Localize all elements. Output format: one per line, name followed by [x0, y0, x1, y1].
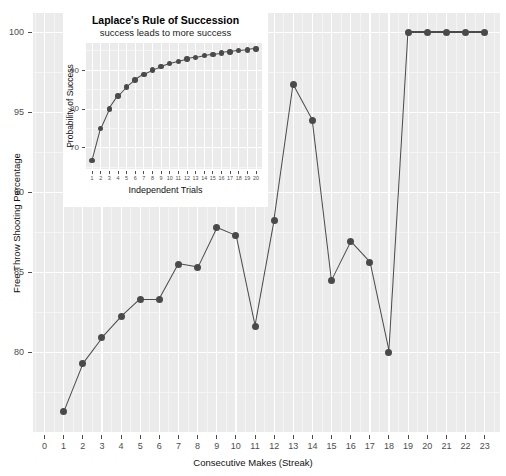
inset-x-tick-mark [238, 171, 239, 174]
gridline-horizontal-major [33, 352, 500, 353]
y-tick-mark [28, 32, 32, 33]
inset-gridline-vertical-major [187, 43, 188, 169]
inset-gridline-vertical-major [221, 43, 222, 169]
gridline-vertical-major [446, 13, 447, 432]
gridline-vertical-major [427, 13, 428, 432]
inset-x-tick-mark [161, 171, 162, 174]
x-tick-mark [293, 435, 294, 439]
inset-x-tick-mark [169, 171, 170, 174]
inset-data-point [141, 72, 146, 77]
inset-data-point [158, 64, 163, 69]
inset-x-tick-mark [221, 171, 222, 174]
data-point [462, 29, 469, 36]
data-point [79, 360, 86, 367]
data-point [405, 29, 412, 36]
x-tick-mark [331, 435, 332, 439]
gridline-vertical-minor [456, 13, 457, 432]
gridline-vertical-major [44, 13, 45, 432]
inset-gridline-vertical-major [92, 43, 93, 169]
data-point [481, 29, 488, 36]
inset-x-tick-mark [204, 171, 205, 174]
inset-x-tick-mark [100, 171, 101, 174]
inset-data-point [210, 52, 215, 57]
inset-y-axis-title: Probability of Success [65, 64, 75, 148]
x-tick-mark [140, 435, 141, 439]
y-tick-label: 100 [0, 27, 24, 37]
inset-y-tick-mark [82, 147, 85, 148]
gridline-vertical-minor [398, 13, 399, 432]
gridline-vertical-minor [302, 13, 303, 432]
inset-gridline-horizontal-major [86, 70, 262, 71]
inset-gridline-vertical-major [247, 43, 248, 169]
gridline-vertical-major [388, 13, 389, 432]
data-point [252, 323, 259, 330]
inset-data-point [219, 50, 224, 55]
inset-gridline-vertical-major [238, 43, 239, 169]
inset-gridline-vertical-major [161, 43, 162, 169]
y-tick-label: 95 [0, 107, 24, 117]
inset-data-point [227, 49, 232, 54]
x-tick-mark [101, 435, 102, 439]
inset-gridline-horizontal-major [86, 147, 262, 148]
inset-x-tick-mark [212, 171, 213, 174]
data-point [156, 296, 163, 303]
inset-data-point [89, 158, 94, 163]
data-point [443, 29, 450, 36]
inset-gridline-vertical-major [152, 43, 153, 169]
data-point [424, 29, 431, 36]
inset-gridline-vertical-major [143, 43, 144, 169]
x-tick-mark [44, 435, 45, 439]
inset-x-tick-mark [118, 171, 119, 174]
inset-data-point [184, 56, 189, 61]
y-axis-title: Free Throw Shooting Percentage [11, 153, 22, 293]
inset-gridline-vertical-major [256, 43, 257, 169]
gridline-vertical-major [331, 13, 332, 432]
gridline-horizontal-minor [33, 232, 500, 233]
inset-x-tick-mark [187, 171, 188, 174]
gridline-vertical-major [350, 13, 351, 432]
x-tick-mark [408, 435, 409, 439]
x-axis-title: Consecutive Makes (Streak) [0, 457, 506, 468]
inset-data-point [253, 46, 258, 51]
data-point [213, 224, 220, 231]
inset-gridline-horizontal-minor [86, 89, 262, 90]
inset-y-tick-mark [82, 109, 85, 110]
x-tick-mark [484, 435, 485, 439]
inset-x-tick-mark [247, 171, 248, 174]
inset-gridline-vertical-major [126, 43, 127, 169]
inset-data-point [245, 47, 250, 52]
gridline-vertical-minor [379, 13, 380, 432]
x-tick-mark [427, 435, 428, 439]
x-tick-mark [255, 435, 256, 439]
inset-data-point [107, 106, 112, 111]
x-tick-mark [350, 435, 351, 439]
inset-gridline-vertical-major [118, 43, 119, 169]
gridline-vertical-minor [35, 13, 36, 432]
x-tick-mark [82, 435, 83, 439]
gridline-vertical-minor [283, 13, 284, 432]
x-tick-mark [159, 435, 160, 439]
inset-y-tick-mark [82, 70, 85, 71]
inset-gridline-vertical-major [135, 43, 136, 169]
gridline-vertical-major [312, 13, 313, 432]
inset-x-tick-mark [135, 171, 136, 174]
y-tick-mark [28, 272, 32, 273]
inset-subtitle: success leads to more success [63, 27, 268, 38]
inset-gridline-vertical-major [230, 43, 231, 169]
inset-data-point [115, 93, 120, 98]
data-point [175, 261, 182, 268]
inset-x-tick-mark [178, 171, 179, 174]
inset-data-point [176, 59, 181, 64]
inset-x-axis-title: Independent Trials [63, 185, 268, 195]
y-tick-mark [28, 112, 32, 113]
gridline-vertical-minor [54, 13, 55, 432]
inset-x-tick-mark [143, 171, 144, 174]
inset-title: Laplace's Rule of Succession [63, 14, 268, 26]
inset-gridline-horizontal-major [86, 109, 262, 110]
gridline-vertical-minor [494, 13, 495, 432]
gridline-vertical-major [465, 13, 466, 432]
gridline-vertical-major [369, 13, 370, 432]
y-tick-mark [28, 352, 32, 353]
inset-x-tick-mark [92, 171, 93, 174]
x-tick-label: 23 [471, 441, 499, 451]
